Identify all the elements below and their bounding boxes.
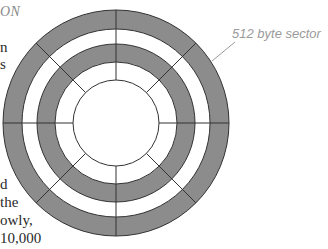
hub-ring	[73, 80, 159, 166]
disk-diagram: 512 byte sector	[0, 0, 328, 249]
sector-leader-line	[212, 42, 235, 61]
sector-label: 512 byte sector	[232, 26, 322, 41]
